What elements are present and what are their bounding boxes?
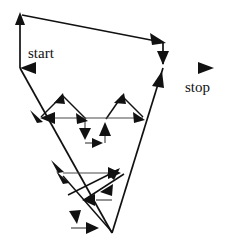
- edge-right-outer-diagonal: [112, 68, 163, 233]
- edge-left-outer-diagonal: [20, 68, 112, 233]
- arrowhead-to-peakleft: [54, 93, 65, 104]
- arrowhead-topright-to-stop: [157, 51, 169, 65]
- edge-peakright-to-midright: [122, 96, 143, 117]
- traversal-diagram: start stop: [0, 0, 225, 248]
- arrowhead-valleyleft-down: [79, 128, 91, 140]
- arrowhead-midleft-to-lowleft: [51, 160, 64, 173]
- arrowhead-valleyright-up: [99, 122, 111, 136]
- edge-lowright-to-lowmidleft: [84, 174, 124, 200]
- arrowhead-to-bottom: [69, 210, 81, 224]
- middle-level-paths: [41, 95, 143, 119]
- arrowhead-midright-to-stop: [152, 71, 164, 88]
- arrowhead-to-apex: [15, 12, 25, 25]
- arrowhead-to-midleft: [40, 112, 55, 124]
- start-label: start: [28, 46, 54, 61]
- edge-peakleft-to-valleyleft: [62, 95, 86, 119]
- edge-apex-to-topright: [22, 15, 156, 41]
- arrowhead-to-topright: [150, 33, 166, 45]
- arrowhead-to-peakright: [114, 93, 126, 104]
- diagram-canvas: [0, 0, 225, 248]
- arrowhead-stop: [198, 62, 214, 74]
- arrowhead-valley-right: [92, 138, 103, 148]
- arrowhead-bottom-right: [86, 222, 99, 234]
- stop-label: stop: [185, 80, 210, 95]
